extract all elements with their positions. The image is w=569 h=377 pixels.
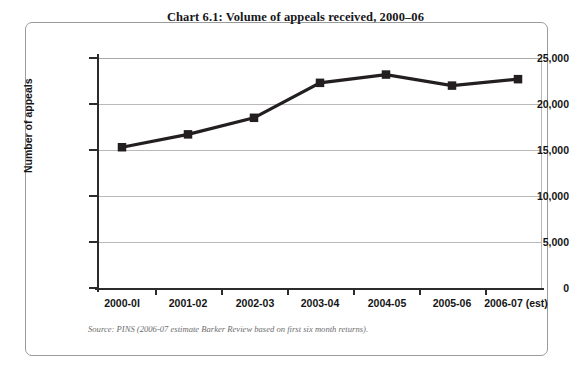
source-note: Source: PINS (2006-07 estimate Barker Re… <box>88 324 368 334</box>
x-axis-label-2005-06: 2005-06 <box>433 297 472 309</box>
y-axis-label-10000: 10,000 <box>485 190 569 202</box>
x-tick-3 <box>287 288 289 295</box>
x-axis-label-2004-05: 2004-05 <box>368 297 407 309</box>
y-tick-10000 <box>89 195 98 197</box>
x-axis-label-2006-07-est: 2006-07 (est) <box>484 297 548 309</box>
y-tick-20000 <box>89 103 98 105</box>
x-axis-label-2001-02: 2001-02 <box>169 297 208 309</box>
x-tick-5 <box>419 288 421 295</box>
gridline-15000 <box>97 150 542 151</box>
y-axis-label-25000: 25,000 <box>485 52 569 64</box>
y-tick-15000 <box>89 149 98 151</box>
x-tick-6 <box>485 288 487 295</box>
gridline-5000 <box>97 242 542 243</box>
gridline-20000 <box>97 104 542 105</box>
x-tick-2 <box>221 288 223 295</box>
y-tick-25000 <box>89 57 98 59</box>
x-axis-line <box>95 288 544 290</box>
x-tick-1 <box>155 288 157 295</box>
x-axis-label-2002-03: 2002-03 <box>236 297 275 309</box>
y-axis-label-0: 0 <box>485 282 569 294</box>
gridline-10000 <box>97 196 542 197</box>
y-axis-label-20000: 20,000 <box>485 98 569 110</box>
y-tick-5000 <box>89 241 98 243</box>
chart-title: Chart 6.1: Volume of appeals received, 2… <box>0 10 569 25</box>
x-axis-label-2000-01: 2000-0I <box>104 297 140 309</box>
plot-right-edge <box>541 58 542 288</box>
y-axis-label-15000: 15,000 <box>485 144 569 156</box>
gridline-25000 <box>97 58 542 59</box>
y-axis-label-5000: 5,000 <box>485 236 569 248</box>
y-axis-line <box>97 54 99 292</box>
plot-area <box>97 58 542 288</box>
y-tick-0 <box>89 287 98 289</box>
x-axis-label-2003-04: 2003-04 <box>301 297 340 309</box>
x-tick-4 <box>353 288 355 295</box>
y-axis-title: Number of appeals <box>22 78 34 173</box>
